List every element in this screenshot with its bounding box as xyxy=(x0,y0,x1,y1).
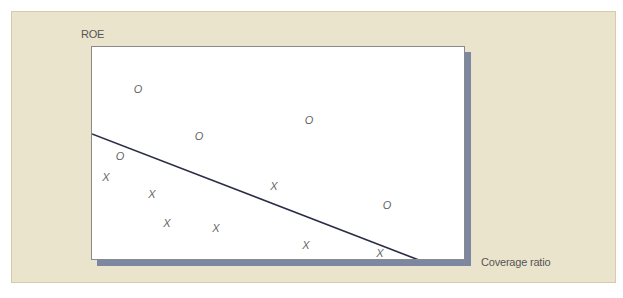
marker-o: O xyxy=(134,84,143,95)
marker-x: X xyxy=(270,181,277,192)
marker-x: X xyxy=(376,248,383,259)
y-axis-label: ROE xyxy=(81,28,104,40)
x-axis-label: Coverage ratio xyxy=(481,256,550,268)
separating-line-svg xyxy=(92,47,465,260)
marker-x: X xyxy=(163,218,170,229)
marker-x: X xyxy=(302,240,309,251)
marker-o: O xyxy=(195,131,204,142)
discriminant-line xyxy=(92,134,424,260)
plot-area xyxy=(91,46,465,260)
marker-o: O xyxy=(116,151,125,162)
marker-o: O xyxy=(305,115,314,126)
marker-x: X xyxy=(212,223,219,234)
marker-x: X xyxy=(148,189,155,200)
marker-x: X xyxy=(102,172,109,183)
marker-o: O xyxy=(383,200,392,211)
